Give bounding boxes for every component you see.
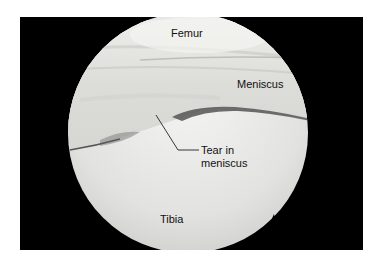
- label-tibia: Tibia: [160, 213, 183, 225]
- label-meniscus: Meniscus: [237, 78, 283, 90]
- label-tear-line1: Tear in: [201, 144, 234, 156]
- label-femur: Femur: [171, 27, 203, 39]
- arthroscopic-image: [0, 0, 375, 266]
- label-tear-line2: meniscus: [201, 157, 247, 169]
